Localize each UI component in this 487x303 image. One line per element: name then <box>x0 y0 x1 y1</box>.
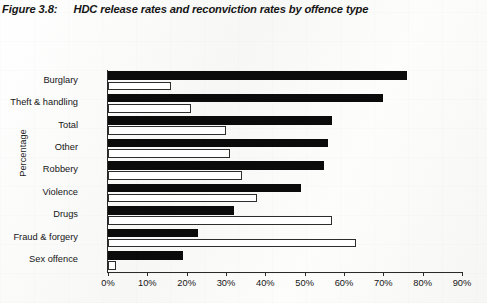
bar-row: Drugs <box>108 205 462 227</box>
figure-title-row: Figure 3.8: HDC release rates and reconv… <box>2 3 485 23</box>
release-rate-bar <box>108 184 301 193</box>
reconviction-rate-bar <box>108 171 242 180</box>
x-axis-tick-label: 60% <box>322 278 366 288</box>
x-axis-line <box>107 272 463 273</box>
x-axis-tick-label: 50% <box>283 278 327 288</box>
x-axis-tick-label: 70% <box>361 278 405 288</box>
x-axis-tick <box>462 272 463 276</box>
plot-area: BurglaryTheft & handlingTotalOtherRobber… <box>108 70 462 272</box>
release-rate-bar <box>108 139 328 148</box>
x-axis-tick-label: 90% <box>440 278 484 288</box>
reconviction-rate-bar <box>108 126 226 135</box>
x-axis-tick <box>383 272 384 276</box>
x-axis-tick <box>265 272 266 276</box>
x-axis-tick <box>147 272 148 276</box>
release-rate-bar <box>108 116 332 125</box>
category-label-fraud-forgery: Fraud & forgery <box>0 232 78 242</box>
bar-rows-group: BurglaryTheft & handlingTotalOtherRobber… <box>108 70 462 272</box>
release-rate-bar <box>108 71 407 80</box>
x-axis-tick-label: 0% <box>86 278 130 288</box>
release-rate-bar <box>108 229 198 238</box>
reconviction-rate-bar <box>108 261 116 270</box>
release-rate-bar <box>108 251 183 260</box>
x-axis-tick-label: 80% <box>401 278 445 288</box>
x-axis-tick <box>108 272 109 276</box>
bar-row: Theft & handling <box>108 92 462 114</box>
release-rate-bar <box>108 161 324 170</box>
x-axis-tick <box>423 272 424 276</box>
x-axis-tick-label: 20% <box>165 278 209 288</box>
reconviction-rate-bar <box>108 194 257 203</box>
reconviction-rate-bar <box>108 104 191 113</box>
category-label-theft-handling: Theft & handling <box>0 97 78 107</box>
figure-title-text: HDC release rates and reconviction rates… <box>73 3 368 15</box>
reconviction-rate-bar <box>108 216 332 225</box>
bar-row: Burglary <box>108 70 462 92</box>
category-label-total: Total <box>0 120 78 130</box>
category-label-sex-offence: Sex offence <box>0 254 78 264</box>
bar-row: Fraud & forgery <box>108 227 462 249</box>
bar-row: Sex offence <box>108 250 462 272</box>
figure-container: Figure 3.8: HDC release rates and reconv… <box>0 0 487 303</box>
x-axis-tick-label: 40% <box>243 278 287 288</box>
reconviction-rate-bar <box>108 149 230 158</box>
category-label-burglary: Burglary <box>0 75 78 85</box>
bar-row: Violence <box>108 182 462 204</box>
x-axis-tick-label: 30% <box>204 278 248 288</box>
bar-row: Total <box>108 115 462 137</box>
x-axis-tick <box>344 272 345 276</box>
release-rate-bar <box>108 206 234 215</box>
category-label-drugs: Drugs <box>0 209 78 219</box>
x-axis-tick <box>187 272 188 276</box>
x-axis-tick <box>226 272 227 276</box>
category-label-violence: Violence <box>0 187 78 197</box>
bar-row: Robbery <box>108 160 462 182</box>
category-label-other: Other <box>0 142 78 152</box>
release-rate-bar <box>108 94 383 103</box>
reconviction-rate-bar <box>108 82 171 91</box>
x-axis-tick-label: 10% <box>125 278 169 288</box>
figure-number-label: Figure 3.8: <box>2 3 57 15</box>
x-axis-tick <box>305 272 306 276</box>
reconviction-rate-bar <box>108 239 356 248</box>
category-label-robbery: Robbery <box>0 164 78 174</box>
bar-row: Other <box>108 137 462 159</box>
